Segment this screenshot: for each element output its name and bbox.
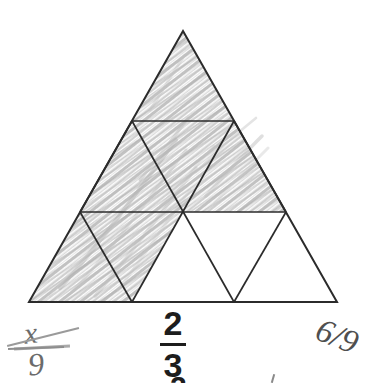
handwritten-note-right: 6/9 (316, 318, 374, 383)
worksheet-canvas: 2 3 x 9 6/9 2 (0, 0, 377, 383)
fraction-numerator: 2 (164, 306, 183, 340)
clipped-glyph-below-fraction: 2 (170, 370, 187, 383)
strikethrough-line (7, 327, 79, 346)
handwritten-note-left: x 9 (6, 316, 78, 383)
right-note-text: 6/9 (311, 311, 364, 361)
left-note-denominator: 9 (27, 345, 46, 383)
left-lean-divider-3 (234, 212, 286, 302)
